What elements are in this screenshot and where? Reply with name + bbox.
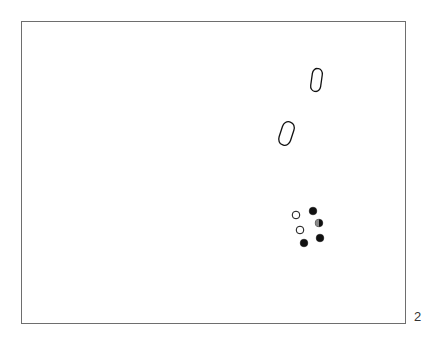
open-dot-1 — [292, 211, 300, 219]
oval-outline-2 — [277, 120, 296, 147]
oval-outline-1 — [310, 68, 323, 92]
filled-dot-6 — [316, 234, 324, 242]
filled-dot-5 — [300, 239, 308, 247]
dot-cluster-group — [292, 207, 324, 247]
filled-dot-2 — [309, 207, 317, 215]
figure-number-label: 2 — [414, 310, 421, 323]
diagram-canvas — [0, 0, 435, 340]
half-dot-light-side — [315, 219, 319, 227]
outlined-ovals-group — [277, 68, 323, 147]
open-dot-3 — [296, 226, 304, 234]
